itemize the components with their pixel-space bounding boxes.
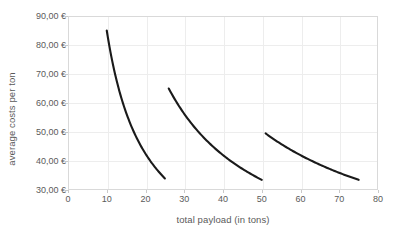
x-tick-mark-20 [146,190,147,193]
y-tick-label-60: 60,00 € [6,98,66,108]
y-axis-title: average costs per ton [0,0,22,238]
x-tick-mark-10 [107,190,108,193]
x-tick-label-30: 30 [164,194,204,204]
x-tick-label-70: 70 [319,194,359,204]
x-tick-label-0: 0 [48,194,88,204]
y-tick-label-50: 50,00 € [6,127,66,137]
y-tick-label-80: 80,00 € [6,40,66,50]
x-tick-mark-0 [68,190,69,193]
x-tick-label-60: 60 [281,194,321,204]
x-tick-label-80: 80 [358,194,397,204]
data-curves [68,16,378,190]
x-tick-label-10: 10 [87,194,127,204]
cost-curve-segment-1 [107,31,165,179]
x-tick-label-50: 50 [242,194,282,204]
x-tick-label-40: 40 [203,194,243,204]
chart-container: average costs per ton 30,00 € 40,00 € 50… [0,0,397,238]
x-tick-mark-40 [223,190,224,193]
x-tick-mark-30 [184,190,185,193]
x-tick-mark-60 [301,190,302,193]
x-tick-mark-70 [339,190,340,193]
x-tick-label-20: 20 [126,194,166,204]
x-tick-mark-80 [378,190,379,193]
x-axis-title: total payload (in tons) [68,214,378,225]
y-tick-label-90: 90,00 € [6,11,66,21]
x-tick-mark-50 [262,190,263,193]
cost-curve-segment-3 [266,133,359,179]
cost-curve-segment-2 [169,89,262,180]
y-tick-label-40: 40,00 € [6,156,66,166]
y-tick-label-70: 70,00 € [6,69,66,79]
